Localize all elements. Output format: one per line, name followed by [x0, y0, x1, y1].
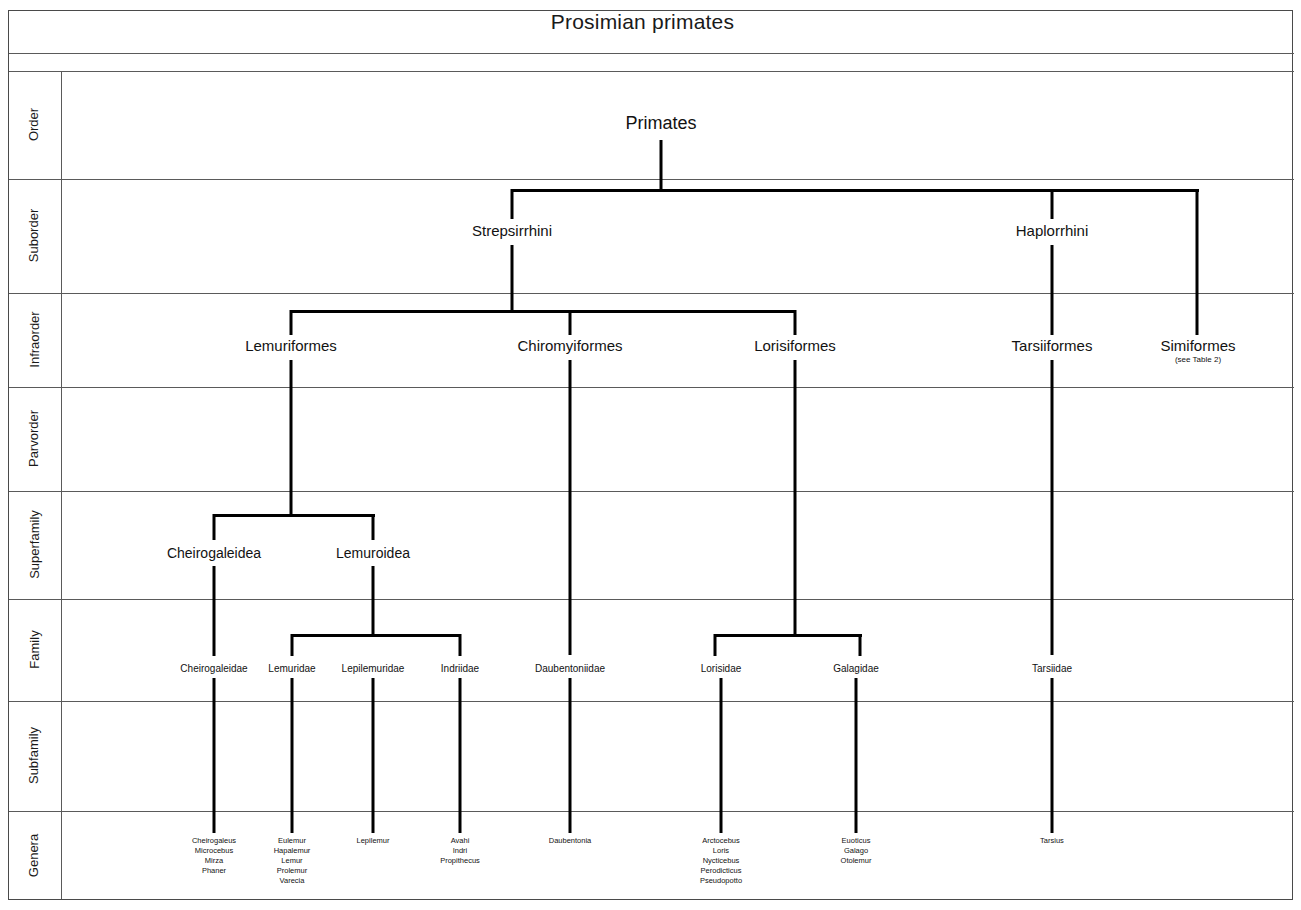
- table-frame: [8, 10, 1293, 900]
- node-lepilemuridae[interactable]: Lepilemuridae: [342, 663, 405, 674]
- node-indriidae[interactable]: Indriidae: [441, 663, 479, 674]
- connector-lemuridae-stem: [291, 678, 294, 833]
- connector-tarsiidae-stem: [1051, 678, 1054, 833]
- rank-label-suborder: Suborder: [8, 178, 60, 292]
- connector-cheirogaleidae-stem: [213, 678, 216, 833]
- rank-label-superfamily-text: Superfamily: [27, 510, 42, 579]
- rule-subfamily-bottom: [9, 811, 1294, 812]
- node-cheirogaleidae[interactable]: Cheirogaleidae: [180, 663, 247, 674]
- node-tarsiiformes[interactable]: Tarsiiformes: [1012, 337, 1093, 354]
- node-lemuroidea[interactable]: Lemuroidea: [336, 545, 410, 561]
- rank-label-suborder-text: Suborder: [27, 208, 42, 261]
- connector-lorisidae-stem: [720, 678, 723, 833]
- connector-infraorder-bar: [290, 310, 796, 313]
- rank-label-order: Order: [8, 70, 60, 178]
- rank-label-subfamily: Subfamily: [8, 700, 60, 810]
- connector-haplorrhini-drop: [1051, 189, 1054, 219]
- connector-haplorrhini-stem: [1051, 245, 1054, 335]
- rule-parvorder-bottom: [9, 491, 1294, 492]
- genera-cheirogaleidae: CheirogaleusMicrocebusMirzaPhaner: [192, 836, 236, 876]
- connector-simiformes-stem: [1196, 189, 1199, 335]
- connector-lemuriformes-drop: [290, 310, 293, 335]
- connector-lemuroidea-drop: [372, 514, 375, 540]
- rank-label-infraorder-text: Infraorder: [27, 311, 42, 367]
- rule-infraorder-bottom: [9, 387, 1294, 388]
- node-lorisiformes[interactable]: Lorisiformes: [754, 337, 836, 354]
- connector-chiromyiformes-stem: [569, 360, 572, 655]
- connector-primates-stem: [660, 140, 663, 190]
- node-lemuridae[interactable]: Lemuridae: [268, 663, 315, 674]
- rule-rank-column: [61, 71, 62, 899]
- connector-strepsirrhini-drop: [511, 189, 514, 219]
- node-primates[interactable]: Primates: [625, 113, 696, 134]
- node-tarsiidae[interactable]: Tarsiidae: [1032, 663, 1072, 674]
- connector-indriidae-drop: [459, 634, 462, 656]
- connector-lorisidae-drop: [714, 634, 717, 656]
- genera-lorisidae: ArctocebusLorisNycticebusPerodicticusPse…: [700, 836, 742, 886]
- connector-cheirogaleidea-drop: [213, 514, 216, 540]
- rank-label-genera: Genera: [8, 810, 60, 900]
- node-galagidae[interactable]: Galagidae: [833, 663, 879, 674]
- connector-lemuriformes-stem: [290, 360, 293, 515]
- rank-label-family: Family: [8, 598, 60, 700]
- connector-tarsiiformes-stem: [1051, 360, 1054, 655]
- connector-family-bar-lorisiformes: [714, 634, 862, 637]
- genera-tarsiidae: Tarsius: [1040, 836, 1064, 846]
- genera-lemuridae: EulemurHapalemurLemurProlemurVarecia: [274, 836, 311, 886]
- node-lorisidae[interactable]: Lorisidae: [701, 663, 742, 674]
- rank-label-family-text: Family: [27, 630, 42, 668]
- connector-cheirogaleidea-stem: [213, 566, 216, 656]
- node-chiromyiformes[interactable]: Chiromyiformes: [517, 337, 622, 354]
- connector-suborder-bar: [511, 189, 1199, 192]
- connector-daubentoniidae-stem: [569, 678, 572, 833]
- rule-suborder-bottom: [9, 293, 1294, 294]
- rule-superfamily-bottom: [9, 599, 1294, 600]
- genera-lepilemuridae: Lepilemur: [357, 836, 390, 846]
- node-simiformes[interactable]: Simiformes(see Table 2): [1160, 337, 1235, 364]
- node-strepsirrhini[interactable]: Strepsirrhini: [472, 222, 552, 239]
- connector-strepsirrhini-stem: [511, 245, 514, 311]
- connector-lemuroidea-stem: [372, 566, 375, 636]
- rule-family-bottom: [9, 701, 1294, 702]
- node-simiformes-note: (see Table 2): [1160, 355, 1235, 364]
- node-haplorrhini[interactable]: Haplorrhini: [1016, 222, 1089, 239]
- connector-lorisiformes-stem: [794, 360, 797, 635]
- connector-chiromyiformes-drop: [569, 310, 572, 335]
- rule-order-bottom: [9, 179, 1294, 180]
- genera-galagidae: EuoticusGalagoOtolemur: [841, 836, 872, 866]
- rank-label-genera-text: Genera: [27, 833, 42, 876]
- rank-label-order-text: Order: [26, 107, 41, 140]
- taxonomy-table: Prosimian primates Order Suborder Infrao…: [0, 0, 1301, 910]
- rank-label-superfamily: Superfamily: [8, 490, 60, 598]
- node-simiformes-label: Simiformes: [1160, 337, 1235, 354]
- connector-indriidae-stem: [459, 678, 462, 833]
- connector-family-bar-lemuroidea: [291, 634, 461, 637]
- rank-label-infraorder: Infraorder: [8, 292, 60, 386]
- genera-daubentoniidae: Daubentonia: [549, 836, 592, 846]
- node-lemuriformes[interactable]: Lemuriformes: [245, 337, 337, 354]
- rank-label-parvorder: Parvorder: [8, 386, 60, 490]
- rule-spacer-bottom: [9, 71, 1294, 72]
- connector-lepilemuridae-stem: [372, 678, 375, 833]
- rule-title-bottom: [9, 53, 1294, 54]
- connector-lemuridae-drop: [291, 634, 294, 656]
- genera-indriidae: AvahiIndriPropithecus: [440, 836, 480, 866]
- node-daubentoniidae[interactable]: Daubentoniidae: [535, 663, 605, 674]
- node-cheirogaleidea[interactable]: Cheirogaleidea: [167, 545, 261, 561]
- rank-label-subfamily-text: Subfamily: [27, 726, 42, 783]
- connector-lorisiformes-drop: [794, 310, 797, 335]
- rank-label-parvorder-text: Parvorder: [27, 409, 42, 466]
- connector-galagidae-drop: [859, 634, 862, 656]
- connector-galagidae-stem: [855, 678, 858, 833]
- connector-superfamily-bar: [213, 514, 375, 517]
- page-title: Prosimian primates: [0, 10, 1285, 34]
